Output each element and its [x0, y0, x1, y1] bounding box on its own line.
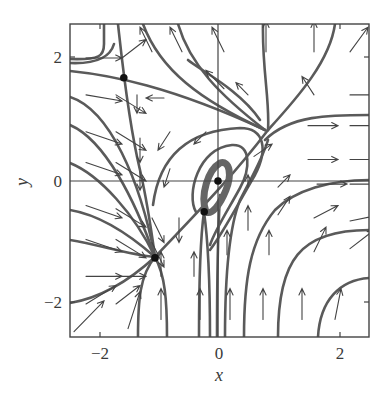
vector-arrow-icon	[350, 213, 380, 221]
vector-arrow-icon	[194, 132, 206, 144]
x-tick-label: 2	[336, 344, 345, 363]
x-tick-label: 0	[215, 344, 224, 363]
equilibrium-point	[200, 208, 208, 216]
vector-arrow-icon	[350, 123, 380, 129]
vector-arrow-icon	[158, 289, 164, 320]
vector-arrow-icon	[116, 273, 146, 279]
vector-arrow-icon	[350, 181, 380, 187]
vector-arrow-icon	[302, 76, 314, 94]
equilibrium-point	[151, 254, 159, 262]
vector-arrow-icon	[299, 289, 305, 320]
y-tick-label: 0	[54, 172, 63, 191]
vector-arrow-icon	[163, 169, 170, 187]
equilibrium-point	[214, 177, 222, 185]
x-tick-label: −2	[91, 344, 109, 363]
vector-arrow-icon	[308, 123, 338, 129]
equilibrium-point	[120, 74, 128, 82]
vector-arrow-icon	[227, 289, 233, 320]
vector-arrow-icon	[152, 218, 164, 243]
vector-arrow-icon	[86, 95, 122, 103]
vector-arrow-icon	[260, 289, 266, 320]
vector-arrow-icon	[236, 83, 248, 95]
vector-arrow-icon	[350, 27, 368, 52]
vector-arrow-icon	[311, 21, 317, 52]
vector-arrow-icon	[116, 95, 146, 113]
vector-arrow-icon	[122, 40, 146, 58]
vector-arrow-icon	[308, 156, 338, 162]
vector-arrow-icon	[350, 156, 380, 162]
y-tick-label: −2	[44, 293, 62, 312]
vector-arrow-icon	[266, 230, 272, 255]
y-tick-label: 2	[54, 48, 63, 67]
vector-arrow-icon	[245, 206, 251, 231]
vector-arrow-icon	[350, 92, 380, 98]
vector-arrow-icon	[158, 132, 170, 150]
vector-arrow-icon	[350, 230, 374, 248]
vector-arrow-icon	[314, 206, 338, 218]
vector-arrow-icon	[146, 95, 164, 101]
y-axis-label: y	[12, 178, 32, 188]
vector-arrow-icon	[116, 239, 146, 257]
x-axis-label: x	[214, 365, 223, 385]
vector-arrow-icon	[86, 286, 116, 304]
phase-portrait-chart: −2 0 2 2 0 −2 x y	[0, 0, 388, 411]
vector-arrow-icon	[134, 95, 140, 113]
vector-arrow-icon	[74, 301, 104, 332]
vector-arrow-icon	[191, 252, 197, 277]
